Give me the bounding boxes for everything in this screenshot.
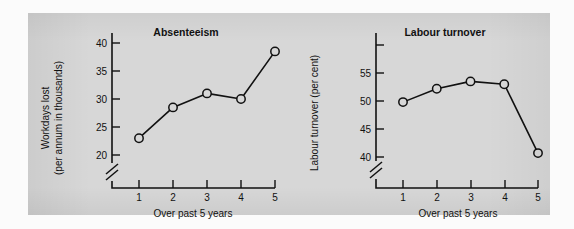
y-axis-label: Labour turnover (per cent) xyxy=(309,55,320,171)
y-tick-label-25: 25 xyxy=(96,122,108,133)
y-tick-label-30: 30 xyxy=(96,94,108,105)
x-tick-label-1: 1 xyxy=(136,192,142,203)
data-point-marker xyxy=(237,95,245,103)
x-tick-label-5: 5 xyxy=(535,192,541,203)
y-axis-label-line1: Workdays lost xyxy=(40,86,51,149)
chart-labour-turnover: Labour turnover Labour turnover (per cen… xyxy=(290,13,550,215)
x-axis-line xyxy=(112,181,275,188)
x-tick-group xyxy=(139,180,275,188)
data-point-marker xyxy=(399,98,407,106)
data-point-marker xyxy=(534,149,542,157)
x-tick-label-1: 1 xyxy=(400,192,406,203)
x-axis-line xyxy=(376,179,538,188)
figure-page: Absenteeism Workdays lost (per annum in … xyxy=(0,0,574,229)
figure-panel: Absenteeism Workdays lost (per annum in … xyxy=(28,13,550,215)
data-point-marker xyxy=(500,80,508,88)
x-tick-label-3: 3 xyxy=(468,192,474,203)
x-axis-label: Over past 5 years xyxy=(419,208,498,219)
x-tick-label-4: 4 xyxy=(238,192,244,203)
series-markers xyxy=(135,47,279,142)
x-axis-label: Over past 5 years xyxy=(154,208,233,219)
y-tick-group xyxy=(112,43,120,155)
data-point-marker xyxy=(135,134,143,142)
chart-title: Labour turnover xyxy=(404,26,485,38)
y-tick-label-20: 20 xyxy=(96,150,108,161)
x-tick-label-5: 5 xyxy=(272,192,278,203)
y-tick-label-40: 40 xyxy=(360,152,372,163)
y-tick-label-35: 35 xyxy=(96,66,108,77)
y-axis-label-line2: (per annum in thousands) xyxy=(53,61,64,175)
series-line xyxy=(403,81,538,153)
x-tick-group xyxy=(403,180,538,188)
chart-absenteeism: Absenteeism Workdays lost (per annum in … xyxy=(28,13,290,215)
y-tick-label-50: 50 xyxy=(360,96,372,107)
y-tick-label-45: 45 xyxy=(360,124,372,135)
x-tick-label-2: 2 xyxy=(170,192,176,203)
chart-title: Absenteeism xyxy=(153,26,218,38)
y-axis-break-icon xyxy=(106,164,118,180)
y-tick-label-55: 55 xyxy=(360,68,372,79)
data-point-marker xyxy=(169,103,177,111)
x-tick-label-3: 3 xyxy=(204,192,210,203)
data-point-marker xyxy=(271,47,279,55)
data-point-marker xyxy=(203,89,211,97)
data-point-marker xyxy=(466,77,474,85)
x-tick-label-4: 4 xyxy=(502,192,508,203)
y-tick-group xyxy=(376,45,384,157)
y-tick-label-40: 40 xyxy=(96,38,108,49)
data-point-marker xyxy=(433,84,441,92)
x-tick-label-2: 2 xyxy=(434,192,440,203)
y-axis-break-icon xyxy=(370,162,382,178)
